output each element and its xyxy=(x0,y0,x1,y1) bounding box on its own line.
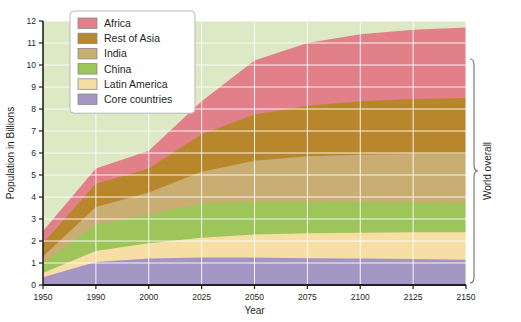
legend-label-rest-of-asia: Rest of Asia xyxy=(104,32,160,44)
legend-swatch-africa xyxy=(78,18,97,29)
x-axis-tick-label: 1950 xyxy=(34,292,53,302)
population-projection-chart: 0123456789101112195019902000202520502075… xyxy=(0,0,521,322)
legend-label-china: China xyxy=(104,63,132,75)
y-axis-title: Population in Billions xyxy=(5,107,16,199)
x-axis-tick-label: 2025 xyxy=(192,292,211,302)
y-axis-tick-label: 2 xyxy=(31,236,36,246)
legend-label-core-countries: Core countries xyxy=(104,93,172,105)
y-axis-tick-label: 0 xyxy=(31,280,36,290)
x-axis-tick-label: 2150 xyxy=(457,292,476,302)
legend-label-india: India xyxy=(104,47,127,59)
legend: AfricaRest of AsiaIndiaChinaLatin Americ… xyxy=(70,11,195,113)
y-axis-tick-label: 9 xyxy=(31,82,36,92)
x-axis-tick-label: 2100 xyxy=(351,292,370,302)
x-axis-tick-label: 2125 xyxy=(404,292,423,302)
x-axis-tick-label: 2000 xyxy=(139,292,158,302)
y-axis-tick-label: 11 xyxy=(27,38,36,48)
y-axis-tick-label: 4 xyxy=(31,192,36,202)
x-axis-title: Year xyxy=(244,305,265,316)
y-axis-tick-label: 1 xyxy=(31,258,36,268)
world-overall-bracket xyxy=(470,59,478,283)
y-axis-tick-label: 3 xyxy=(31,214,36,224)
y-axis-tick-label: 10 xyxy=(27,60,37,70)
legend-swatch-china xyxy=(78,64,97,75)
world-overall-label: World overall xyxy=(482,142,493,200)
legend-swatch-rest-of-asia xyxy=(78,33,97,44)
y-axis-tick-label: 6 xyxy=(31,148,36,158)
legend-swatch-india xyxy=(78,48,97,59)
legend-swatch-core-countries xyxy=(78,94,97,105)
x-axis-tick-label: 1990 xyxy=(86,292,105,302)
x-axis-tick-label: 2075 xyxy=(298,292,317,302)
x-axis-tick-label: 2050 xyxy=(245,292,264,302)
legend-swatch-latin-america xyxy=(78,79,97,90)
y-axis-tick-label: 7 xyxy=(31,126,36,136)
y-axis-tick-label: 8 xyxy=(31,104,36,114)
y-axis-tick-label: 12 xyxy=(27,16,37,26)
legend-label-latin-america: Latin America xyxy=(104,78,168,90)
chart-canvas: 0123456789101112195019902000202520502075… xyxy=(0,0,521,322)
legend-label-africa: Africa xyxy=(104,17,131,29)
y-axis-tick-label: 5 xyxy=(31,170,36,180)
